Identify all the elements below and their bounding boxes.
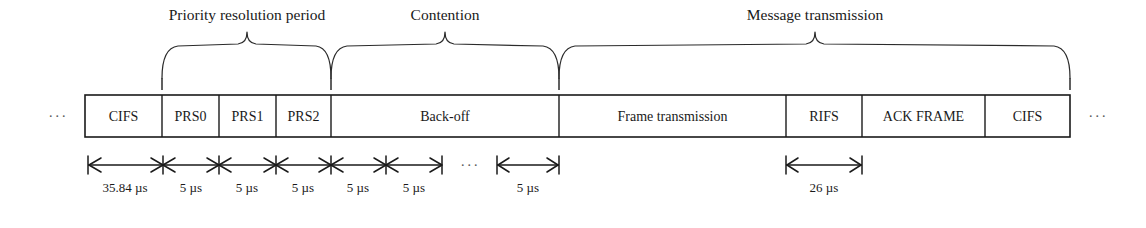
- timeline-cell-cifs-2: CIFS: [1013, 109, 1043, 124]
- dimension-label-slot1-duration: 5 µs: [347, 180, 369, 195]
- dimension-label-slot2-duration: 5 µs: [403, 180, 425, 195]
- timeline-cell-cifs-1: CIFS: [109, 109, 139, 124]
- dimension-chain-priority: [88, 156, 442, 174]
- dimension-label-prs1-duration: 5 µs: [236, 180, 258, 195]
- brace-priority-resolution-period: [162, 32, 331, 78]
- timing-diagram-canvas: Priority resolution period Contention Me…: [0, 0, 1146, 228]
- dimension-rifs: [786, 156, 862, 174]
- slot-gap-ellipsis: ···: [460, 157, 480, 173]
- dimension-label-cifs-duration: 35.84 µs: [102, 180, 147, 195]
- dimension-last-slot: [497, 156, 559, 174]
- leading-ellipsis: ···: [48, 108, 68, 124]
- brace-anchor-ticks: [162, 78, 1070, 90]
- timeline-cell-prs0: PRS0: [175, 109, 207, 124]
- timeline-cell-dividers: [162, 95, 985, 137]
- timeline-cell-prs1: PRS1: [232, 109, 264, 124]
- dimension-label-prs2-duration: 5 µs: [292, 180, 314, 195]
- dimension-label-rifs-duration: 26 µs: [810, 180, 839, 195]
- dimension-label-last-slot-duration: 5 µs: [517, 180, 539, 195]
- timeline-cell-back-off: Back-off: [420, 109, 470, 124]
- brace-label-message-transmission: Message transmission: [747, 6, 884, 23]
- dimension-label-prs0-duration: 5 µs: [180, 180, 202, 195]
- timeline-cell-frame-transmission: Frame transmission: [617, 109, 727, 124]
- timeline-cell-prs2: PRS2: [288, 109, 320, 124]
- brace-message-transmission: [559, 32, 1070, 78]
- brace-contention: [331, 32, 559, 78]
- timing-diagram: Priority resolution period Contention Me…: [0, 0, 1146, 228]
- timeline-cell-rifs: RIFS: [809, 109, 839, 124]
- brace-label-contention: Contention: [411, 6, 480, 23]
- brace-label-priority-resolution-period: Priority resolution period: [169, 6, 326, 23]
- timeline-cell-ack-frame: ACK FRAME: [883, 109, 964, 124]
- trailing-ellipsis: ···: [1088, 108, 1108, 124]
